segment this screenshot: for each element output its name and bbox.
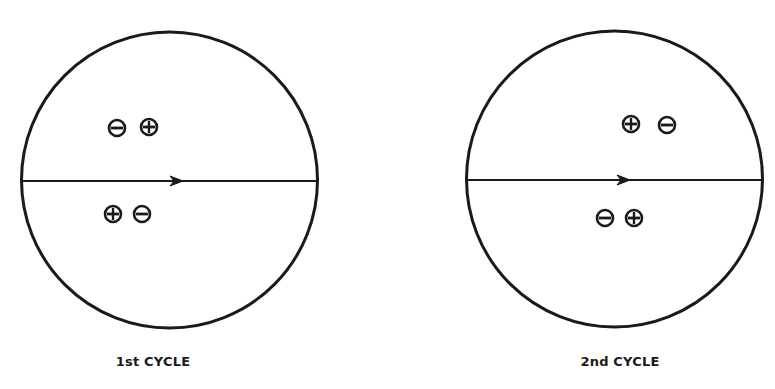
panel-1 (22, 32, 318, 328)
positive-charge-icon (141, 119, 157, 135)
positive-charge-icon (623, 116, 639, 132)
panel-2 (467, 31, 763, 327)
diagram-canvas (0, 0, 775, 389)
negative-charge-icon (659, 117, 675, 133)
caption-1st-cycle: 1st CYCLE (116, 354, 191, 369)
positive-charge-icon (105, 206, 121, 222)
negative-charge-icon (597, 210, 613, 226)
negative-charge-icon (134, 206, 150, 222)
positive-charge-icon (626, 210, 642, 226)
caption-2nd-cycle: 2nd CYCLE (580, 354, 659, 369)
negative-charge-icon (109, 120, 125, 136)
